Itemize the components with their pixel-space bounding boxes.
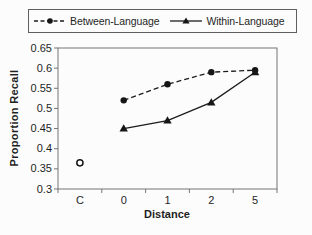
y-tick-label: 0.55 [31, 82, 52, 94]
y-tick-label: 0.45 [31, 122, 52, 134]
x-tick-label: 0 [121, 194, 127, 206]
within-language-marker [207, 98, 215, 105]
x-tick-label: 1 [164, 194, 170, 206]
y-axis-title: Proportion Recall [8, 70, 20, 167]
y-tick-label: 0.65 [31, 42, 52, 54]
between-language-marker [208, 69, 214, 75]
y-tick-label: 0.4 [37, 142, 52, 154]
x-tick-label: 5 [252, 194, 258, 206]
y-tick-label: 0.5 [37, 102, 52, 114]
chart-canvas: 0.650.60.550.50.450.40.350.3C0125 [0, 0, 312, 235]
between-language-marker [164, 81, 170, 87]
control-point-marker [77, 160, 83, 166]
y-tick-label: 0.6 [37, 62, 52, 74]
between-language-marker [121, 97, 127, 103]
y-tick-label: 0.3 [37, 183, 52, 195]
x-tick-label: 2 [208, 194, 214, 206]
y-tick-label: 0.35 [31, 162, 52, 174]
recall-distance-figure: Between-Language Within-Language 0.650.6… [0, 0, 312, 235]
x-tick-label: C [76, 194, 84, 206]
x-axis-title: Distance [144, 208, 190, 220]
series-line-within-language [124, 72, 255, 128]
